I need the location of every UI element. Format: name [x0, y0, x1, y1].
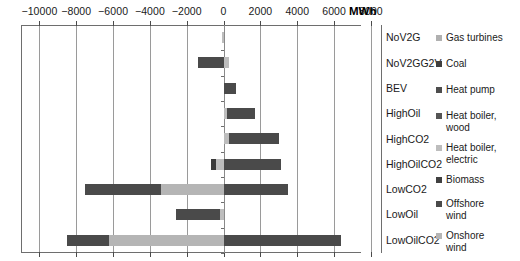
bar-segment [222, 32, 224, 43]
x-tick-label: −4000 [135, 5, 165, 18]
x-tick-label: −8000 [61, 5, 91, 18]
x-tick-label: 2000 [249, 5, 273, 18]
bar-segment [109, 235, 223, 246]
axis-tick-mark [334, 252, 335, 257]
bar-row [0, 228, 520, 251]
bar-segment [176, 209, 220, 220]
bar-segment [220, 209, 224, 220]
axis-bottom-line [21, 252, 361, 253]
bar-segment [67, 235, 109, 246]
bar-row [0, 177, 520, 200]
bar-row [0, 152, 520, 175]
bar-row [0, 25, 520, 48]
bar-segment [198, 57, 224, 68]
x-tick-label: −10000 [21, 5, 57, 18]
bar-row [0, 126, 520, 149]
axis-tick-mark [150, 252, 151, 257]
bar-segment [224, 57, 230, 68]
x-axis-unit-label: MWh [349, 4, 376, 18]
bar-segment [227, 108, 255, 119]
bar-segment [224, 159, 281, 170]
bar-segment [229, 133, 279, 144]
x-axis-tick-labels: −10000−8000−6000−4000−200002000400060008… [0, 5, 360, 21]
axis-tick-mark [39, 252, 40, 257]
bar-row [0, 101, 520, 124]
bar-row [0, 50, 520, 73]
bar-segment [161, 184, 224, 195]
x-tick-label: −2000 [172, 5, 202, 18]
axis-tick-mark [187, 252, 188, 257]
x-tick-label: 6000 [322, 5, 346, 18]
bar-segment [224, 184, 288, 195]
axis-tick-mark [297, 252, 298, 257]
x-tick-label: 4000 [285, 5, 309, 18]
bar-segment [224, 83, 237, 94]
bar-segment [216, 159, 223, 170]
zero-axis-tick [221, 253, 224, 254]
bar-segment [224, 235, 342, 246]
bar-chart: −10000−8000−6000−4000−200002000400060008… [0, 0, 520, 261]
axis-tick-mark [371, 252, 372, 257]
x-tick-label: −6000 [98, 5, 128, 18]
axis-tick-mark [76, 252, 77, 257]
bar-row [0, 76, 520, 99]
axis-tick-mark [260, 252, 261, 257]
axis-tick-mark [113, 252, 114, 257]
bar-segment [85, 184, 161, 195]
x-tick-label: 0 [221, 5, 227, 18]
bar-row [0, 202, 520, 225]
